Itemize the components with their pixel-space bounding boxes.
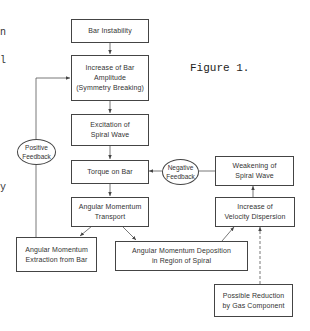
positive-feedback-ellipse: Positive Feedback (17, 139, 56, 165)
node-gas-reduction: Possible Reduction by Gas Component (214, 284, 293, 317)
node-label: Angular Momentum Transport (79, 202, 142, 222)
negative-feedback-ellipse: Negative Feedback (162, 159, 199, 185)
feedback-label: Negative Feedback (166, 163, 195, 181)
node-label: Angular Momentum Deposition in Region of… (132, 246, 231, 266)
feedback-label: Positive Feedback (22, 143, 51, 161)
node-excitation-spiral: Excitation of Spiral Wave (71, 114, 149, 146)
node-label: Increase of Bar Amplitude (Symmetry Brea… (76, 63, 144, 93)
node-weakening-spiral: Weakening of Spiral Wave (215, 156, 294, 186)
node-angular-momentum-extraction: Angular Momentum Extraction from Bar (16, 237, 97, 272)
node-label: Angular Momentum Extraction from Bar (25, 245, 88, 265)
node-label: Weakening of Spiral Wave (233, 161, 277, 181)
margin-text-fragment: l (0, 55, 6, 66)
margin-text-fragment: y (0, 182, 6, 193)
node-angular-momentum-deposition: Angular Momentum Deposition in Region of… (115, 241, 248, 271)
node-label: Possible Reduction by Gas Component (223, 291, 285, 311)
node-label: Bar Instability (88, 26, 132, 36)
figure-label: Figure 1. (190, 62, 249, 74)
margin-text-fragment: n (0, 27, 6, 38)
node-label: Excitation of Spiral Wave (90, 120, 129, 140)
node-increase-amplitude: Increase of Bar Amplitude (Symmetry Brea… (71, 55, 149, 101)
node-torque-on-bar: Torque on Bar (71, 160, 149, 184)
node-bar-instability: Bar Instability (71, 19, 149, 43)
node-increase-velocity-dispersion: Increase of Velocity Dispersion (215, 197, 295, 227)
node-angular-momentum-transport: Angular Momentum Transport (71, 197, 149, 227)
node-label: Increase of Velocity Dispersion (224, 202, 285, 222)
node-label: Torque on Bar (87, 167, 132, 177)
